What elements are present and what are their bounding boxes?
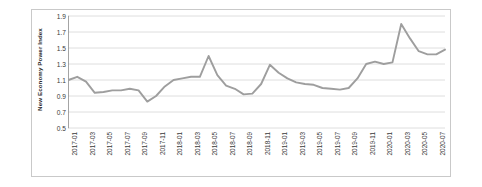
y-axis-tick-label: 1.7 xyxy=(57,29,66,36)
y-axis-title: New Economy Power Index xyxy=(32,10,46,128)
x-axis-tick-label: 2019-09 xyxy=(351,132,358,155)
y-axis-tick-label: 0.5 xyxy=(57,125,66,132)
x-axis-tick-label: 2019-03 xyxy=(299,132,306,155)
chart-canvas xyxy=(68,10,451,136)
x-axis-tick-label: 2017-05 xyxy=(106,132,113,155)
x-axis-tick-label: 2020-03 xyxy=(404,132,411,155)
x-axis-tick-label: 2018-09 xyxy=(246,132,253,155)
y-axis-tick-label: 1.3 xyxy=(57,61,66,68)
x-axis-tick-label: 2018-11 xyxy=(264,132,271,155)
y-axis-title-text: New Economy Power Index xyxy=(36,28,43,111)
x-axis-tick-label: 2020-05 xyxy=(421,132,428,155)
y-axis-tick-label: 0.9 xyxy=(57,93,66,100)
x-axis-tick-label: 2017-03 xyxy=(89,132,96,155)
y-axis-tick-label: 1.1 xyxy=(57,77,66,84)
chart-plot-frame: New Economy Power Index 0.50.70.91.11.31… xyxy=(31,9,451,177)
x-axis-tick-label: 2017-07 xyxy=(124,132,131,155)
x-axis-tick-labels: 2017-012017-032017-052017-072017-092017-… xyxy=(32,132,450,187)
x-axis-tick-label: 2018-07 xyxy=(229,132,236,155)
x-axis-tick-label: 2020-07 xyxy=(439,132,446,155)
y-axis-tick-label: 1.9 xyxy=(57,13,66,20)
x-axis-tick-label: 2017-11 xyxy=(159,132,166,155)
x-axis-tick-label: 2019-05 xyxy=(316,132,323,155)
y-axis-tick-label: 0.7 xyxy=(57,109,66,116)
y-axis-tick-label: 1.5 xyxy=(57,45,66,52)
chart-figure: New Economy Power Index 0.50.70.91.11.31… xyxy=(0,0,482,187)
x-axis-tick-label: 2019-01 xyxy=(281,132,288,155)
y-axis-tick-labels: 0.50.70.91.11.31.51.71.9 xyxy=(46,10,68,128)
x-axis-tick-label: 2018-03 xyxy=(194,132,201,155)
x-axis-tick-label: 2018-05 xyxy=(211,132,218,155)
data-series-line xyxy=(69,24,446,102)
x-axis-tick-label: 2017-09 xyxy=(141,132,148,155)
x-axis-tick-label: 2018-01 xyxy=(176,132,183,155)
x-axis-tick-label: 2017-01 xyxy=(71,132,78,155)
x-axis-tick-label: 2019-11 xyxy=(369,132,376,155)
x-axis-tick-label: 2019-07 xyxy=(334,132,341,155)
gridlines xyxy=(69,16,446,128)
x-axis-tick-label: 2020-01 xyxy=(386,132,393,155)
